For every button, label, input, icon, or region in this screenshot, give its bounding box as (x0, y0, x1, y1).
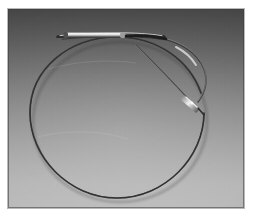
connector-hub (64, 32, 126, 38)
guidewire-photo-illustration (8, 9, 244, 208)
photo-plate (8, 9, 244, 208)
figure-root: Grayscale photograph of a long flexible … (0, 0, 255, 222)
figure-alt-text: Grayscale photograph of a long flexible … (0, 0, 1, 1)
